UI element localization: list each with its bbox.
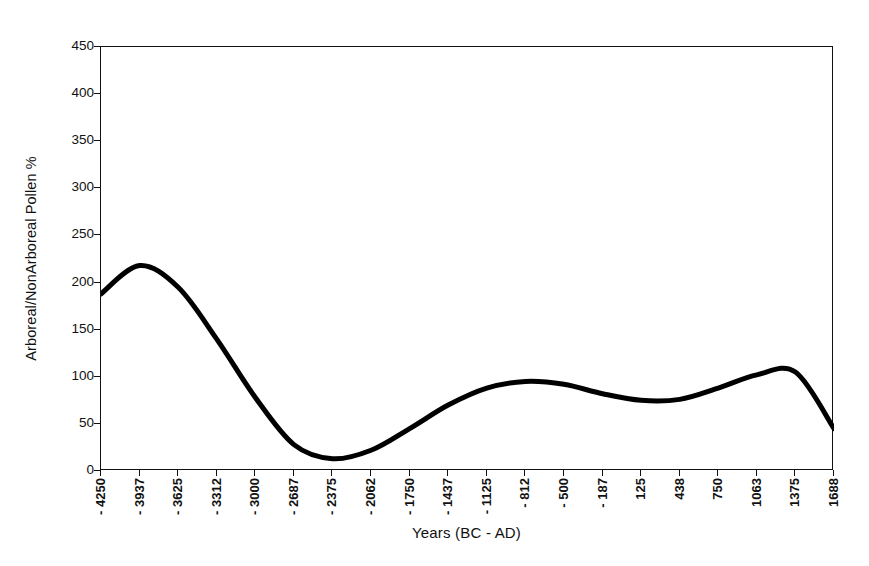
pollen-percentage-chart-figure: Arboreal/NonArboreal Pollen % 4504003503… bbox=[0, 0, 869, 566]
x-axis-tick-label: - 2062 bbox=[362, 478, 378, 518]
x-axis-tick-label-text: - 4250 bbox=[94, 478, 107, 515]
x-axis-tick-mark bbox=[717, 470, 718, 476]
x-axis-tick-label-text: - 3625 bbox=[171, 478, 184, 515]
x-axis-tick-label-text: 750 bbox=[711, 478, 724, 500]
x-axis-tick-label-text: - 3937 bbox=[132, 478, 145, 515]
x-axis-tick-mark bbox=[640, 470, 641, 476]
x-axis-tick-mark bbox=[486, 470, 487, 476]
y-axis-tick-label: 450 bbox=[48, 38, 94, 54]
y-axis-tick-label: 50 bbox=[48, 415, 94, 431]
x-axis-tick-label-text: - 500 bbox=[556, 478, 569, 508]
x-axis-tick-label-text: - 3000 bbox=[248, 478, 261, 515]
x-axis-tick-mark bbox=[100, 470, 101, 476]
x-axis-tick-mark bbox=[602, 470, 603, 476]
x-axis-tick-label: - 3625 bbox=[169, 478, 185, 518]
y-axis-tick-labels: 450400350300250200150100500 bbox=[48, 46, 94, 470]
y-axis-tick-label: 400 bbox=[48, 85, 94, 101]
x-axis-tick-mark bbox=[293, 470, 294, 476]
x-axis-tick-label-text: - 2687 bbox=[286, 478, 299, 515]
x-axis-tick-mark bbox=[139, 470, 140, 476]
x-axis-tick-label: - 3937 bbox=[131, 478, 147, 518]
x-axis-tick-label: - 2687 bbox=[285, 478, 301, 518]
x-axis-tick-mark bbox=[447, 470, 448, 476]
x-axis-tick-label-text: - 2062 bbox=[364, 478, 377, 515]
x-axis-tick-mark bbox=[409, 470, 410, 476]
x-axis-tick-label: - 500 bbox=[555, 478, 571, 518]
data-line-series bbox=[101, 47, 834, 471]
x-axis-tick-label: 1688 bbox=[825, 478, 841, 518]
x-axis-tick-label-text: 1688 bbox=[827, 478, 840, 507]
plot-area bbox=[100, 46, 833, 470]
x-axis-tick-label-text: - 2375 bbox=[325, 478, 338, 515]
y-axis-tick-label: 100 bbox=[48, 368, 94, 384]
x-axis-tick-label: - 4250 bbox=[92, 478, 108, 518]
x-axis-tick-label: 438 bbox=[671, 478, 687, 518]
x-axis-tick-label-text: - 1750 bbox=[402, 478, 415, 515]
x-axis-tick-label: - 187 bbox=[594, 478, 610, 518]
x-axis-tick-label-text: 1375 bbox=[788, 478, 801, 507]
x-axis-tick-mark bbox=[524, 470, 525, 476]
x-axis-tick-label: - 3000 bbox=[246, 478, 262, 518]
x-axis-tick-label-text: - 812 bbox=[518, 478, 531, 508]
x-axis-tick-mark bbox=[370, 470, 371, 476]
x-axis-tick-labels: - 4250- 3937- 3625- 3312- 3000- 2687- 23… bbox=[100, 478, 833, 518]
x-axis-tick-label-text: - 1125 bbox=[479, 478, 492, 514]
x-axis-tick-mark bbox=[833, 470, 834, 476]
x-axis-tick-label-text: 1063 bbox=[749, 478, 762, 507]
x-axis-tick-label-text: 125 bbox=[634, 478, 647, 500]
y-axis-tick-label: 200 bbox=[48, 274, 94, 290]
x-axis-tick-mark bbox=[254, 470, 255, 476]
x-axis-tick-mark bbox=[216, 470, 217, 476]
x-axis-tick-mark bbox=[177, 470, 178, 476]
x-axis-tick-label-text: - 187 bbox=[595, 478, 608, 508]
x-axis-tick-mark bbox=[563, 470, 564, 476]
x-axis-tick-label: 1063 bbox=[748, 478, 764, 518]
x-axis-tick-label: 750 bbox=[709, 478, 725, 518]
x-axis-tick-label: - 1125 bbox=[478, 478, 494, 518]
x-axis-tick-mark bbox=[756, 470, 757, 476]
x-axis-tick-label: - 3312 bbox=[208, 478, 224, 518]
y-axis-tick-label: 350 bbox=[48, 132, 94, 148]
x-axis-tick-mark bbox=[794, 470, 795, 476]
x-axis-tick-label: 1375 bbox=[786, 478, 802, 518]
x-axis-tick-label-text: 438 bbox=[672, 478, 685, 500]
x-axis-tick-mark bbox=[331, 470, 332, 476]
arboreal-nonarboreal-pollen-curve bbox=[101, 266, 834, 459]
y-axis-tick-label: 0 bbox=[48, 462, 94, 478]
x-axis-tick-mark bbox=[679, 470, 680, 476]
x-axis-tick-label: - 1437 bbox=[439, 478, 455, 518]
x-axis-tick-label-text: - 1437 bbox=[441, 478, 454, 515]
x-axis-tick-label: 125 bbox=[632, 478, 648, 518]
x-axis-tick-label-text: - 3312 bbox=[209, 478, 222, 515]
y-axis-tick-label: 300 bbox=[48, 179, 94, 195]
y-axis-title: Arboreal/NonArboreal Pollen % bbox=[18, 47, 44, 470]
x-axis-tick-label: - 1750 bbox=[401, 478, 417, 518]
x-axis-tick-label: - 812 bbox=[516, 478, 532, 518]
x-axis-tick-marks bbox=[100, 470, 833, 478]
y-axis-tick-label: 250 bbox=[48, 226, 94, 242]
y-axis-tick-label: 150 bbox=[48, 321, 94, 337]
x-axis-title: Years (BC - AD) bbox=[100, 524, 833, 541]
x-axis-tick-label: - 2375 bbox=[323, 478, 339, 518]
